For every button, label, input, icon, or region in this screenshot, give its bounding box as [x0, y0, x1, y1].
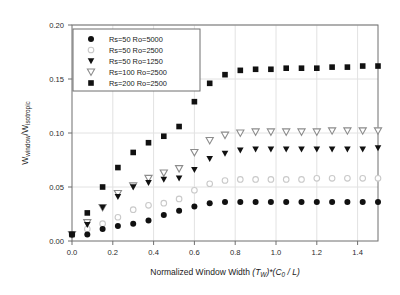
x-tick-label: 0.8 [230, 248, 241, 257]
x-axis-title: Normalized Window Width (TW)*(C0 / L) [150, 267, 300, 278]
data-point [314, 176, 320, 182]
x-tick-label: 0.6 [189, 248, 200, 257]
data-point [115, 223, 121, 229]
data-point [329, 176, 335, 182]
data-point [360, 63, 366, 69]
data-point [238, 68, 244, 74]
data-point [115, 214, 121, 220]
data-point [329, 199, 335, 205]
data-point [192, 99, 198, 105]
data-point [69, 232, 75, 238]
data-point [314, 65, 320, 71]
data-point [191, 203, 197, 209]
data-point [299, 65, 305, 71]
data-point [222, 72, 228, 78]
data-point [253, 177, 259, 183]
legend-label: Rs=50 Ro=2500 [109, 46, 163, 55]
data-point [130, 150, 136, 156]
data-point [345, 176, 351, 182]
scatter-plot: 0.00.20.40.60.81.01.21.4 0.000.050.100.1… [0, 0, 400, 295]
data-point [329, 64, 335, 70]
data-point [146, 203, 152, 209]
chart-figure: 0.00.20.40.60.81.01.21.4 0.000.050.100.1… [0, 0, 400, 295]
y-tick-label: 0.00 [49, 237, 64, 246]
data-point [283, 65, 289, 71]
data-point [161, 200, 167, 206]
data-point [176, 208, 182, 214]
data-point [238, 177, 244, 183]
data-point [283, 199, 289, 205]
data-point [207, 181, 213, 187]
x-tick-label: 0.2 [108, 248, 119, 257]
data-point [253, 66, 259, 72]
data-point [100, 226, 106, 232]
legend-marker-1 [88, 47, 94, 53]
data-point [237, 199, 243, 205]
data-point [222, 199, 228, 205]
data-point [299, 177, 305, 183]
data-point [130, 221, 136, 227]
data-point [375, 199, 381, 205]
y-tick-label: 0.20 [49, 21, 64, 30]
data-point [146, 217, 152, 223]
y-tick-label: 0.15 [49, 75, 64, 84]
data-point [268, 199, 274, 205]
data-point [314, 199, 320, 205]
data-point [176, 124, 182, 130]
x-tick-label: 1.0 [271, 248, 282, 257]
x-axis-title-text: Normalized Window Width (TW)*(C0 / L) [150, 267, 300, 278]
data-point [253, 199, 259, 205]
data-point [192, 187, 198, 193]
data-point [268, 177, 274, 183]
x-tick-label: 1.2 [312, 248, 323, 257]
data-point [176, 196, 182, 202]
data-point [85, 210, 91, 216]
legend-label: Rs=50 Ro=1250 [109, 57, 163, 66]
data-point [375, 63, 381, 69]
data-point [299, 199, 305, 205]
legend-label: Rs=100 Ro=2500 [109, 68, 167, 77]
legend-label: Rs=50 Ro=5000 [109, 35, 163, 44]
data-point [375, 176, 381, 182]
data-point [146, 140, 152, 146]
y-tick-label: 0.05 [49, 183, 64, 192]
data-point [344, 199, 350, 205]
legend-marker-0 [88, 36, 94, 42]
legend-label: Rs=200 Ro=2500 [109, 79, 167, 88]
x-tick-label: 0.0 [67, 248, 78, 257]
data-point [283, 177, 289, 183]
data-point [161, 133, 167, 139]
chart-legend: Rs=50 Ro=5000Rs=50 Ro=2500Rs=50 Ro=1250R… [73, 29, 200, 91]
data-point [207, 81, 213, 87]
data-point [360, 176, 366, 182]
x-tick-label: 0.4 [148, 248, 159, 257]
x-tick-label: 1.4 [352, 248, 363, 257]
data-point [130, 207, 136, 213]
data-point [161, 212, 167, 218]
data-point [268, 66, 274, 72]
data-point [100, 184, 106, 190]
data-point [100, 221, 106, 227]
data-point [84, 232, 90, 238]
data-point [207, 200, 213, 206]
data-point [345, 64, 351, 70]
data-point [115, 165, 121, 171]
data-point [222, 178, 228, 184]
y-tick-label: 0.10 [49, 129, 64, 138]
data-point [360, 199, 366, 205]
legend-marker-4 [88, 80, 94, 86]
